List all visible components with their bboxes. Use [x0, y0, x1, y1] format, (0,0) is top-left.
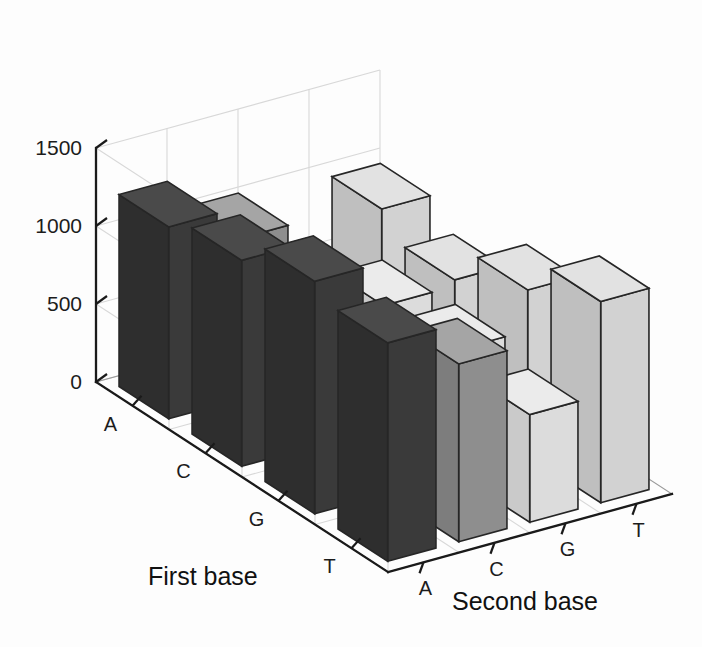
bar-TA	[338, 297, 436, 561]
bars-layer	[119, 163, 649, 561]
value-axis-tick-label: 0	[70, 370, 82, 393]
first-base-tick-label-T: T	[323, 555, 335, 577]
first-base-tick-label-C: C	[176, 460, 190, 482]
value-axis-tick-label: 1500	[35, 136, 82, 159]
second-base-tick-label-G: G	[560, 538, 576, 560]
second-base-tick-label-T: T	[632, 519, 644, 541]
second-base-tick-label-C: C	[489, 558, 503, 580]
value-axis-tick-label: 500	[47, 292, 82, 315]
second-base-tick-label-A: A	[419, 577, 433, 599]
first-base-axis-title: First base	[148, 562, 258, 590]
value-axis: 150010005000	[35, 136, 107, 393]
codon-usage-3d-bar-chart: 150010005000 ACGTACGT First base Second …	[0, 0, 702, 647]
chart-canvas: 150010005000 ACGTACGT First base Second …	[0, 0, 702, 647]
value-axis-tick-label: 1000	[35, 214, 82, 237]
second-base-axis-title: Second base	[452, 587, 598, 615]
first-base-tick-label-A: A	[104, 413, 118, 435]
first-base-tick-label-G: G	[249, 508, 265, 530]
